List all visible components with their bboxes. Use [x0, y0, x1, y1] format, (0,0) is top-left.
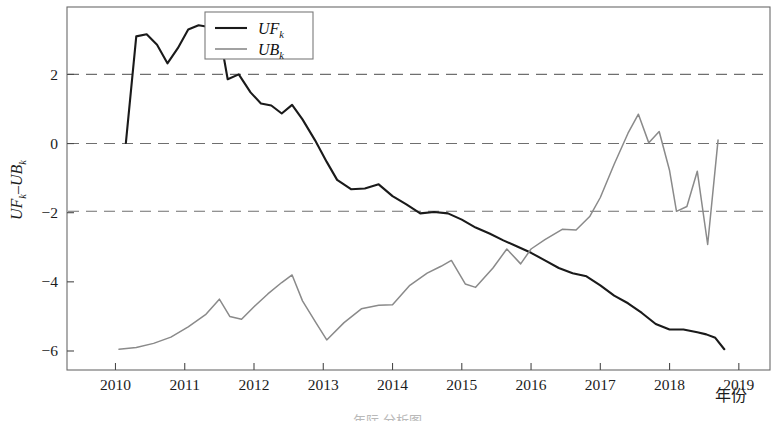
x-axis-tick-labels: 2010201120122013201420152016201720182019	[100, 376, 755, 393]
x-tick-label-2013: 2013	[308, 376, 339, 393]
y-tick-label-−6: −6	[42, 342, 59, 359]
chart-figure: 2010201120122013201420152016201720182019…	[0, 0, 775, 421]
plot-frame	[67, 7, 770, 370]
y-tick-label-−4: −4	[42, 273, 59, 290]
x-tick-label-2017: 2017	[585, 376, 616, 393]
x-tick-label-2016: 2016	[516, 376, 547, 393]
y-axis-title: UFk–UBk	[8, 160, 28, 220]
x-tick-label-2011: 2011	[170, 376, 200, 393]
x-tick-label-2014: 2014	[377, 376, 408, 393]
x-tick-label-2012: 2012	[239, 376, 270, 393]
y-tick-label-−2: −2	[42, 204, 59, 221]
y-axis-tick-labels: 20−2−4−6	[42, 66, 59, 360]
plot-border	[67, 7, 770, 370]
y-tick-label-0: 0	[50, 135, 58, 152]
y-axis-title-ub: UB	[8, 164, 25, 186]
y-axis-title-uf: UF	[8, 198, 25, 220]
y-tick-label-2: 2	[50, 66, 58, 83]
line-chart-canvas: 2010201120122013201420152016201720182019…	[0, 0, 775, 421]
x-tick-label-2018: 2018	[654, 376, 685, 393]
y-axis-title-text: UFk–UBk	[8, 160, 28, 220]
x-axis-title-text: 年份	[715, 386, 747, 405]
legend[interactable]: UFkUBk	[205, 12, 313, 61]
x-tick-label-2010: 2010	[100, 376, 131, 393]
x-tick-label-2015: 2015	[446, 376, 477, 393]
y-axis-title-ub-sub: k	[17, 160, 28, 165]
x-axis-title: 年份	[715, 386, 747, 405]
